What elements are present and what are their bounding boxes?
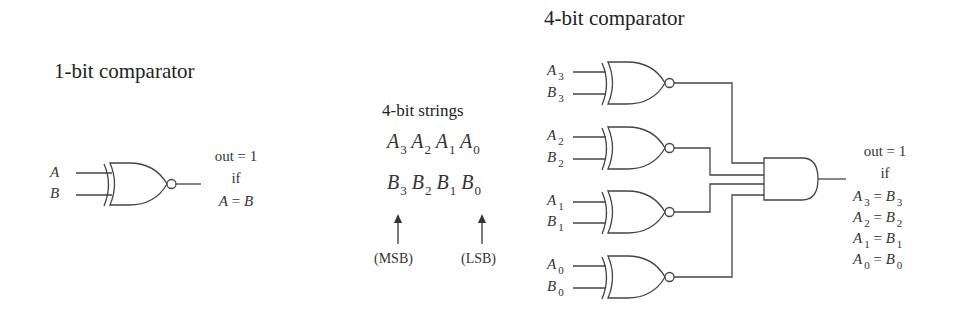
and-gate bbox=[764, 158, 846, 200]
xnor-gate-bit3 bbox=[573, 62, 674, 105]
four-bit-if-line: if bbox=[852, 165, 918, 182]
condition-bit2: A2 = B2 bbox=[853, 209, 902, 226]
xnor-gate-1bit bbox=[76, 163, 201, 206]
input-a2-label: A2 bbox=[547, 127, 564, 144]
condition-bit3: A3 = B3 bbox=[853, 188, 902, 205]
four-bit-title: 4-bit comparator bbox=[544, 6, 685, 31]
input-b0-label: B0 bbox=[547, 278, 564, 295]
xnor-gate-bit1 bbox=[573, 191, 674, 234]
input-b-label: B bbox=[50, 185, 59, 202]
condition-bit1: A1 = B1 bbox=[853, 230, 902, 247]
one-bit-condition: A = B bbox=[203, 193, 269, 210]
input-a-label: A bbox=[50, 164, 59, 181]
xnor-gate-bit2 bbox=[573, 127, 674, 170]
xnor-gate-bit0 bbox=[573, 256, 674, 299]
condition-bit0: A0 = B0 bbox=[853, 251, 902, 268]
input-a1-label: A1 bbox=[547, 192, 564, 209]
wires bbox=[674, 83, 764, 277]
msb-arrow-icon bbox=[394, 214, 402, 244]
input-b2-label: B2 bbox=[547, 149, 564, 166]
one-bit-if-line: if bbox=[203, 170, 269, 187]
lsb-arrow-icon bbox=[478, 214, 486, 244]
one-bit-out-line: out = 1 bbox=[203, 148, 269, 165]
input-a3-label: A3 bbox=[547, 62, 564, 79]
lsb-label: (LSB) bbox=[461, 251, 496, 267]
strings-title: 4-bit strings bbox=[382, 101, 464, 121]
msb-label: (MSB) bbox=[374, 251, 413, 267]
b-string: B3 B2 B1 B0 bbox=[387, 171, 481, 194]
input-b3-label: B3 bbox=[547, 84, 564, 101]
four-bit-out-line: out = 1 bbox=[852, 143, 918, 160]
input-a0-label: A0 bbox=[547, 256, 564, 273]
a-string: A3 A2 A1 A0 bbox=[387, 130, 480, 153]
input-b1-label: B1 bbox=[547, 213, 564, 230]
one-bit-title: 1-bit comparator bbox=[54, 59, 195, 84]
